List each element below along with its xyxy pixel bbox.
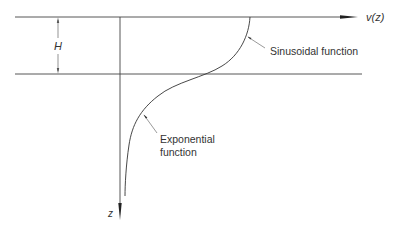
sinusoidal-function-label: Sinusoidal function [270, 45, 358, 57]
h-dimension-arrow-up-icon [57, 18, 59, 24]
exponential-function-label-line2: function [160, 146, 197, 158]
h-dimension-arrow-down-icon [57, 68, 59, 74]
velocity-profile-curve [125, 17, 250, 196]
dimension-h-label: H [54, 40, 62, 52]
horizontal-axis-label: v(z) [366, 11, 384, 23]
vertical-axis-arrowhead-icon [118, 203, 121, 220]
vertical-axis-label: z [108, 208, 113, 220]
exponential-function-label-line1: Exponential [160, 133, 215, 145]
horizontal-axis-arrowhead-icon [340, 15, 358, 19]
velocity-profile-diagram [0, 0, 399, 229]
exponential-leader-arrow-icon [144, 114, 148, 118]
